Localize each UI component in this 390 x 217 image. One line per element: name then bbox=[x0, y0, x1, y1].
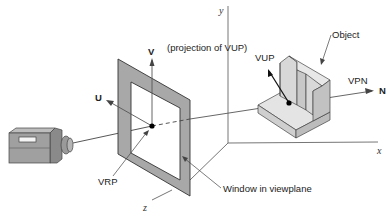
n-arrowhead bbox=[365, 88, 374, 94]
object-shape bbox=[258, 56, 330, 138]
projection-of-vup-label: (projection of VUP) bbox=[167, 42, 247, 53]
vrp-label: VRP bbox=[98, 176, 118, 187]
x-axis-line bbox=[228, 142, 378, 143]
object-label: Object bbox=[332, 29, 360, 40]
u-axis-label: U bbox=[95, 92, 102, 103]
z-axis-line-lower bbox=[152, 190, 172, 200]
camera-icon bbox=[9, 128, 73, 163]
object-leader-arrowhead bbox=[320, 58, 325, 65]
window-in-viewplane-label: Window in viewplane bbox=[223, 183, 312, 194]
vrp-leader-arrowhead bbox=[143, 130, 149, 136]
vpn-label: VPN bbox=[348, 75, 368, 86]
vrp-point bbox=[149, 123, 154, 128]
z-axis-line bbox=[190, 143, 228, 180]
vup-label: VUP bbox=[255, 52, 275, 63]
object-reference-point bbox=[286, 100, 291, 105]
object-leader bbox=[322, 35, 331, 62]
z-axis-label: z bbox=[142, 202, 147, 213]
v-arrowhead bbox=[150, 58, 155, 66]
y-axis-label: y bbox=[218, 5, 224, 16]
x-axis-label: x bbox=[376, 145, 382, 156]
n-axis-label: N bbox=[379, 85, 386, 96]
u-arrowhead bbox=[106, 100, 114, 106]
v-axis-label: V bbox=[148, 46, 155, 57]
viewing-diagram: y x z V U N (projection of VUP) VUP VPN … bbox=[0, 0, 390, 217]
